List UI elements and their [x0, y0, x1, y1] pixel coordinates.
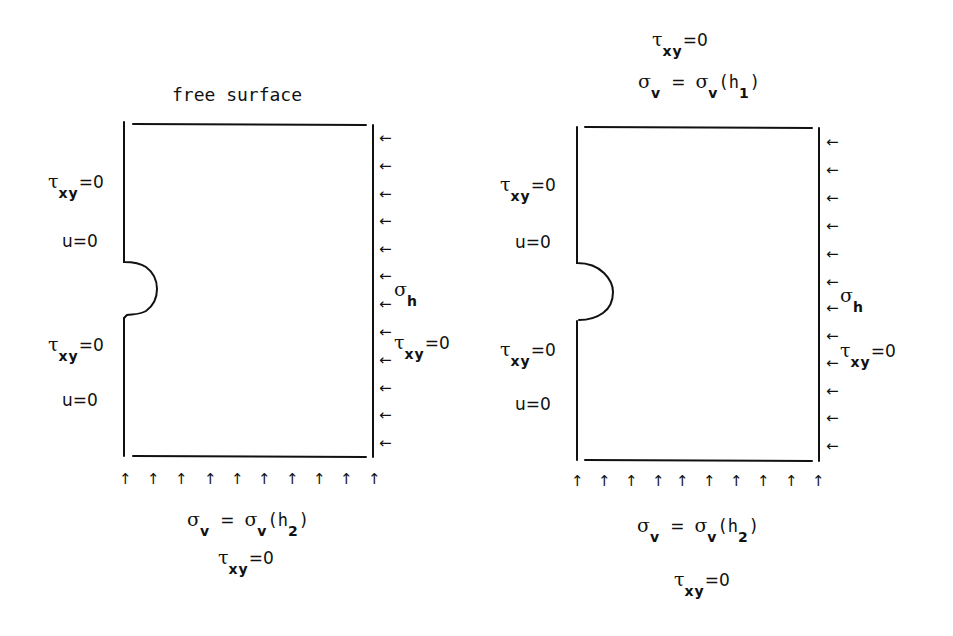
left-arrow-icon: ←	[379, 242, 392, 257]
left-panel-bottom-edge	[133, 456, 366, 457]
up-arrow-icon: ↑	[286, 472, 299, 487]
up-arrow-icon: ↑	[340, 472, 353, 487]
left-right-shear-label: τxy=0	[394, 333, 450, 352]
left-bottom-shear-label: τxy=0	[218, 548, 274, 567]
left-arrow-icon: ←	[826, 439, 839, 454]
up-arrow-icon: ↑	[703, 474, 716, 489]
up-arrow-icon: ↑	[598, 474, 611, 489]
left-arrow-icon: ←	[379, 187, 392, 202]
right-bottom-vertical-stress-label: σv=σv(h2)	[637, 516, 759, 535]
left-arrow-icon: ←	[826, 275, 839, 290]
up-arrow-icon: ↑	[730, 474, 743, 489]
up-arrow-icon: ↑	[231, 472, 244, 487]
left-horizontal-stress-label: σh	[394, 280, 418, 299]
left-panel-top-edge	[133, 124, 366, 125]
left-arrow-icon: ←	[379, 297, 392, 312]
left-displacement-label-1: u=0	[62, 233, 98, 250]
up-arrow-icon: ↑	[625, 474, 638, 489]
left-top-label: free surface	[172, 86, 302, 104]
right-horizontal-stress-label: σh	[840, 286, 864, 305]
right-top-shear-label: τxy=0	[652, 30, 708, 49]
right-right-shear-label: τxy=0	[840, 341, 896, 360]
up-arrow-icon: ↑	[785, 474, 798, 489]
up-arrow-icon: ↑	[652, 474, 665, 489]
left-arrow-icon: ←	[826, 191, 839, 206]
left-arrow-icon: ←	[379, 353, 392, 368]
left-arrow-icon: ←	[826, 356, 839, 371]
left-shear-label-2: τxy=0	[48, 335, 104, 354]
up-arrow-icon: ↑	[368, 472, 381, 487]
right-panel-top-edge	[585, 127, 812, 128]
left-arrow-icon: ←	[826, 135, 839, 150]
up-arrow-icon: ↑	[571, 474, 584, 489]
up-arrow-icon: ↑	[258, 472, 271, 487]
right-panel-left-edge-with-notch	[577, 127, 613, 460]
up-arrow-icon: ↑	[676, 474, 689, 489]
right-shear-label-1: τxy=0	[500, 175, 556, 194]
up-arrow-icon: ↑	[119, 472, 132, 487]
left-arrow-icon: ←	[379, 131, 392, 146]
left-arrow-icon: ←	[826, 163, 839, 178]
up-arrow-icon: ↑	[204, 472, 217, 487]
left-arrow-icon: ←	[826, 411, 839, 426]
diagram-geometry	[0, 0, 953, 636]
left-arrow-icon: ←	[379, 436, 392, 451]
up-arrow-icon: ↑	[175, 472, 188, 487]
up-arrow-icon: ↑	[313, 472, 326, 487]
right-displacement-label-1: u=0	[515, 234, 551, 251]
right-displacement-label-2: u=0	[515, 396, 551, 413]
right-bottom-shear-label: τxy=0	[674, 570, 730, 589]
left-displacement-label-2: u=0	[62, 392, 98, 409]
left-arrow-icon: ←	[379, 269, 392, 284]
left-arrow-icon: ←	[379, 325, 392, 340]
left-arrow-icon: ←	[379, 214, 392, 229]
left-arrow-icon: ←	[379, 381, 392, 396]
left-arrow-icon: ←	[826, 329, 839, 344]
left-arrow-icon: ←	[826, 384, 839, 399]
right-top-vertical-stress-label: σv=σv(h1)	[638, 72, 760, 91]
up-arrow-icon: ↑	[757, 474, 770, 489]
left-bottom-vertical-stress-label: σv=σv(h2)	[187, 510, 309, 529]
left-arrow-icon: ←	[379, 159, 392, 174]
up-arrow-icon: ↑	[812, 474, 825, 489]
left-arrow-icon: ←	[826, 219, 839, 234]
left-arrow-icon: ←	[826, 247, 839, 262]
right-panel-bottom-edge	[585, 460, 812, 461]
left-arrow-icon: ←	[379, 408, 392, 423]
right-shear-label-2: τxy=0	[500, 340, 556, 359]
left-panel-left-edge-with-notch	[124, 122, 157, 456]
up-arrow-icon: ↑	[147, 472, 160, 487]
left-arrow-icon: ←	[826, 301, 839, 316]
left-shear-label-1: τxy=0	[48, 172, 104, 191]
